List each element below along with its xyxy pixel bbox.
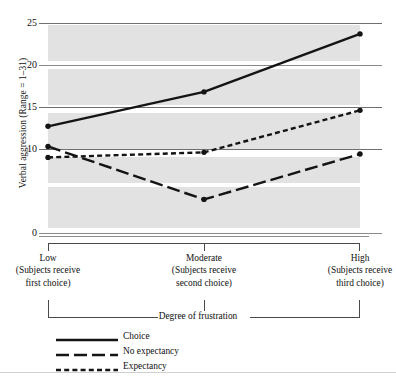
x-group-title: High [285,252,396,264]
legend-item-no-expectancy: No expectancy [56,343,179,358]
data-point [45,124,50,129]
data-point [201,197,206,202]
data-point [357,108,362,113]
x-group-line3: third choice) [285,277,396,289]
data-point [201,89,206,94]
legend-key-long-dash [56,346,118,356]
x-group-line2: (Subjects receive [285,264,396,276]
data-point [201,150,206,155]
data-point [45,144,50,149]
x-group-line3: first choice) [0,277,123,289]
legend-key-solid [56,331,118,341]
x-group-line3: second choice) [129,277,279,289]
y-tick-label: 25 [27,18,37,28]
x-group-line2: (Subjects receive [0,264,123,276]
x-group-high: High (Subjects receive third choice) [285,252,396,289]
data-point [357,151,362,156]
series-canvas [38,23,370,233]
legend: Choice No expectancy Expectancy [56,328,179,373]
legend-key-short-dash [56,361,118,371]
series-line-choice [48,34,360,126]
data-point [357,31,362,36]
x-axis-caption: Degree of frustration [0,311,396,321]
data-point [45,155,50,160]
x-group-low: Low (Subjects receive first choice) [0,252,123,289]
y-tick-label: 15 [27,102,37,112]
page-rule [0,372,396,373]
x-group-moderate: Moderate (Subjects receive second choice… [129,252,279,289]
legend-item-expectancy: Expectancy [56,358,179,373]
x-group-title: Low [0,252,123,264]
plot-area: 25 20 15 10 0 [48,23,360,233]
x-axis-rule [39,236,369,237]
x-axis-bracket [48,243,360,252]
y-tick-label: 0 [32,228,37,238]
y-tick-label: 10 [27,144,37,154]
y-tick-label: 20 [27,60,37,70]
x-group-line2: (Subjects receive [129,264,279,276]
gridline-0 [39,233,382,234]
x-group-title: Moderate [129,252,279,264]
legend-label: Choice [123,331,150,341]
legend-label: Expectancy [123,361,167,371]
legend-item-choice: Choice [56,328,179,343]
chart-figure: Verbal aggression (Range = 1–31) 25 20 1… [0,0,396,378]
legend-label: No expectancy [123,346,179,356]
